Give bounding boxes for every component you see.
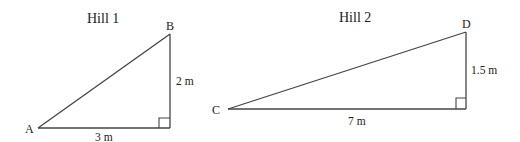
hill-1-title: Hill 1	[87, 11, 119, 26]
hill-1-base-label: 3 m	[95, 131, 113, 142]
hill-2-height-label: 1.5 m	[471, 64, 497, 76]
hill-2-right-angle-marker	[456, 98, 466, 109]
hill-1-triangle: Hill 1 A B 2 m 3 m	[25, 11, 194, 142]
hill-1-right-angle-marker	[159, 118, 170, 128]
vertex-a-label: A	[25, 122, 34, 136]
hill-2-hypotenuse-cd	[228, 32, 466, 109]
vertex-c-label: C	[212, 103, 220, 117]
hill-2-title: Hill 2	[339, 10, 371, 25]
hill-1-hypotenuse-ab	[38, 34, 170, 128]
hills-diagram: Hill 1 A B 2 m 3 m Hill 2 C D 1.5 m 7 m	[0, 0, 520, 142]
vertex-d-label: D	[462, 17, 471, 31]
hill-2-triangle: Hill 2 C D 1.5 m 7 m	[212, 10, 497, 127]
hill-2-base-label: 7 m	[348, 115, 366, 127]
hill-1-height-label: 2 m	[176, 75, 194, 87]
vertex-b-label: B	[166, 19, 174, 33]
